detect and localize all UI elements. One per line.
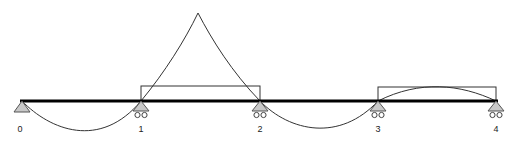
- support-4-roller: [488, 101, 504, 118]
- support-label-1: 1: [138, 124, 143, 134]
- load-box-span-1-2: [141, 86, 260, 101]
- support-2-roller: [252, 101, 268, 118]
- influence-line: [22, 13, 496, 131]
- support-label-0: 0: [17, 124, 22, 134]
- support-label-3: 3: [375, 124, 380, 134]
- support-label-2: 2: [257, 124, 262, 134]
- support-3-roller: [370, 101, 386, 118]
- support-label-4: 4: [493, 124, 498, 134]
- support-1-roller: [133, 101, 149, 118]
